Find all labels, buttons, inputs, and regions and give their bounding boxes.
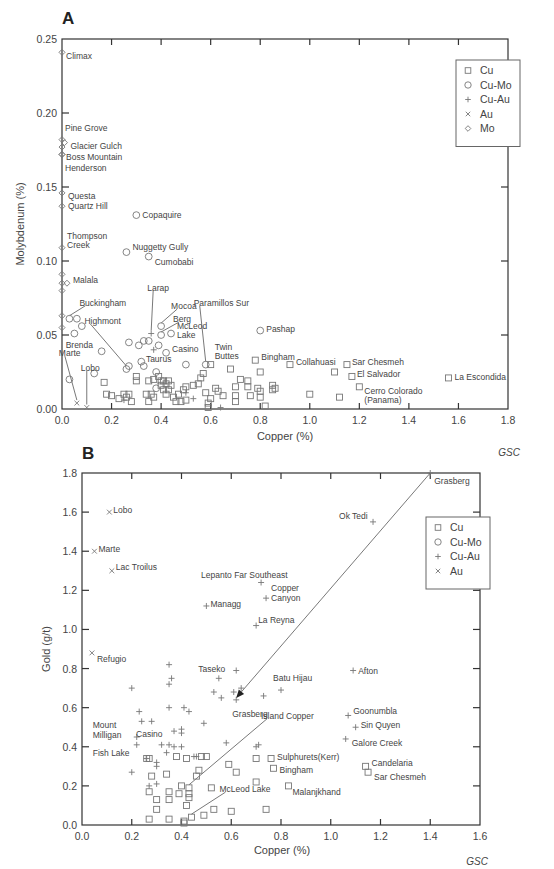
plus-marker	[136, 709, 142, 715]
y-tick-label: 0.10	[37, 255, 58, 267]
chart-b-leader-lines	[189, 719, 267, 814]
square-marker	[232, 384, 238, 390]
x-tick-label: 1.0	[323, 830, 338, 842]
circle-marker	[153, 369, 160, 376]
plus-marker	[159, 742, 165, 748]
plus-marker	[211, 689, 217, 695]
point-label: Quartz Hill	[68, 201, 108, 211]
point-label: Managg	[210, 599, 241, 609]
point-label: Cerro Colorado(Panama)	[364, 386, 422, 406]
legend-entry: Cu-Au	[450, 550, 480, 562]
circle-marker	[133, 212, 140, 219]
y-tick-label: 0.2	[62, 780, 77, 792]
x-tick-label: 0.6	[224, 830, 239, 842]
point-label: Sin Quyen	[361, 720, 401, 730]
arrow-head-icon	[236, 690, 244, 698]
square-marker	[146, 816, 152, 822]
plus-marker	[186, 709, 192, 715]
point-label: La Reyna	[258, 615, 295, 625]
leader-line	[90, 324, 126, 366]
point-label: Malala	[73, 275, 98, 285]
circle-marker	[71, 330, 78, 337]
plus-marker	[129, 685, 135, 691]
square-marker	[349, 373, 355, 379]
square-marker	[208, 396, 214, 402]
plus-marker	[166, 681, 172, 687]
square-marker	[176, 791, 182, 797]
figure: A 0.00.20.40.60.81.01.21.41.61.80.000.05…	[0, 0, 554, 869]
circle-marker	[145, 253, 152, 260]
chart-b-trend-arrow	[236, 473, 430, 698]
square-marker	[201, 812, 207, 818]
plus-marker	[181, 705, 187, 711]
plus-marker	[144, 756, 150, 762]
plus-marker	[146, 783, 152, 789]
point-label: Collahuasi	[296, 357, 336, 367]
plus-marker	[201, 720, 207, 726]
y-tick-label: 1.8	[62, 467, 77, 479]
y-tick-label: 0.4	[62, 741, 77, 753]
square-marker	[186, 791, 192, 797]
circle-marker	[123, 249, 130, 256]
point-label: Glacier Gulch	[70, 141, 122, 151]
square-marker	[233, 769, 239, 775]
x-tick-label: 0.2	[104, 414, 119, 426]
square-marker	[186, 785, 192, 791]
square-marker	[232, 393, 238, 399]
plus-marker	[223, 740, 229, 746]
point-label: Refugio	[97, 654, 127, 664]
square-marker	[271, 765, 277, 771]
square-marker	[227, 366, 233, 372]
square-marker	[245, 384, 251, 390]
square-marker	[101, 379, 107, 385]
circle-marker	[73, 315, 80, 322]
y-tick-label: 0.00	[37, 403, 58, 415]
y-tick-label: 0.25	[37, 33, 58, 45]
point-label: CopperCanyon	[271, 583, 301, 603]
point-label: Candelaria	[372, 758, 413, 768]
square-marker	[179, 783, 185, 789]
point-label: Ok Tedi	[339, 511, 368, 521]
leader-line	[200, 306, 206, 362]
plus-marker	[179, 730, 185, 736]
legend-entry: Mo	[480, 122, 495, 134]
point-label: Questa	[68, 191, 96, 201]
square-marker	[198, 375, 204, 381]
x-tick-label: 0.0	[75, 830, 90, 842]
square-marker	[154, 806, 160, 812]
square-marker	[270, 387, 276, 393]
chart-a-point-labels: ClimaxPine GroveGlacier GulchBoss Mounta…	[59, 51, 506, 405]
plus-marker	[129, 769, 135, 775]
square-marker	[285, 783, 291, 789]
square-marker	[287, 362, 293, 368]
x-marker	[90, 651, 95, 656]
square-marker	[252, 357, 258, 363]
point-label: TwinButtes	[215, 342, 239, 362]
point-label: Lepanto Far Southeast	[201, 570, 288, 580]
plus-marker	[343, 736, 349, 742]
legend-entry: Cu-Mo	[450, 536, 482, 548]
chart-b: B 0.00.20.40.60.81.01.21.41.60.00.20.40.…	[40, 444, 490, 867]
x-marker	[107, 510, 112, 515]
point-label: Bingham	[280, 765, 314, 775]
x-tick-label: 1.4	[423, 830, 438, 842]
x-tick-label: 0.2	[124, 830, 139, 842]
square-marker	[211, 806, 217, 812]
panel-label-b: B	[82, 444, 94, 463]
point-label: Afton	[358, 666, 378, 676]
x-tick-label: 0.0	[55, 414, 70, 426]
square-marker	[363, 763, 369, 769]
plus-marker	[154, 763, 160, 769]
x-marker	[74, 401, 79, 406]
square-marker	[186, 795, 192, 801]
point-label: Pine Grove	[65, 123, 108, 133]
leader-line	[189, 719, 267, 785]
square-marker	[154, 797, 160, 803]
square-marker	[268, 756, 274, 762]
square-marker	[183, 756, 189, 762]
point-label: Marte	[59, 348, 81, 358]
point-label: McLeod Lake	[219, 784, 270, 794]
point-label: Malanjkhand	[292, 787, 340, 797]
point-label: Batu Hijau	[273, 673, 312, 683]
square-marker	[149, 773, 155, 779]
